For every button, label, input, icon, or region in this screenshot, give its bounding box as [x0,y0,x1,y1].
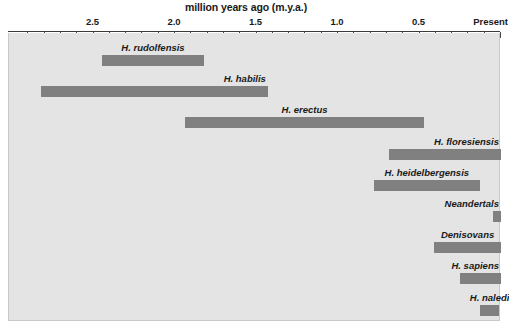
species-label: Neandertals [445,198,499,209]
species-range-bar [374,180,480,191]
species-range-bar [41,86,268,97]
axis-tick-label-row: 2.52.01.51.00.5Present [0,16,509,29]
chart-title: million years ago (m.y.a.) [0,1,492,13]
species-row: Neandertals [9,198,501,229]
species-row: H. naledi [9,292,501,323]
species-label: H. erectus [282,104,328,115]
axis-major-tick [500,32,501,38]
species-row: H. sapiens [9,260,501,291]
species-row: H. rudolfensis [9,42,501,73]
species-label: H. floresiensis [434,136,499,147]
species-row: H. floresiensis [9,136,501,167]
plot-area: H. rudolfensisH. habilisH. erectusH. flo… [8,33,500,321]
species-label: H. sapiens [451,260,499,271]
axis-tick-label: 2.5 [86,16,99,27]
species-row: Denisovans [9,229,501,260]
axis-tick-label: 1.5 [249,16,262,27]
species-label: H. naledi [470,292,509,303]
species-range-bar [493,211,501,222]
species-range-bar [102,55,205,66]
species-range-bar [389,149,501,160]
species-label: H. rudolfensis [121,42,184,53]
species-range-bar [185,117,425,128]
species-range-bar [460,273,501,284]
axis-tick-label: Present [473,16,508,27]
species-label: H. habilis [224,73,266,84]
species-range-bar [480,305,500,316]
species-range-bar [434,242,501,253]
axis-tick-label: 1.0 [330,16,343,27]
species-label: H. heidelbergensis [385,167,469,178]
species-label: Denisovans [441,229,494,240]
axis-tick-label: 0.5 [412,16,425,27]
axis-tick-label: 2.0 [167,16,180,27]
species-row: H. erectus [9,104,501,135]
timeline-chart: million years ago (m.y.a.) 2.52.01.51.00… [0,0,509,327]
species-row: H. heidelbergensis [9,167,501,198]
species-row: H. habilis [9,73,501,104]
